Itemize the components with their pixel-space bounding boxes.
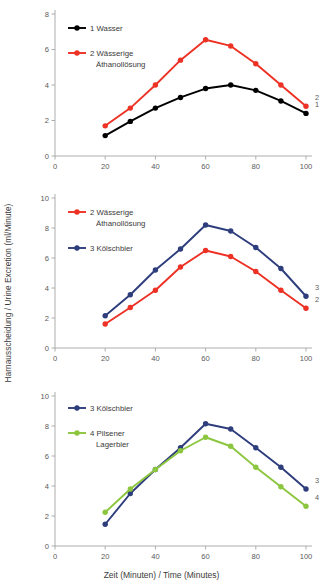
data-point bbox=[203, 248, 208, 253]
data-point bbox=[178, 448, 183, 453]
y-tick-label: 8 bbox=[45, 10, 49, 19]
chart-panel-2: 0246810020406080100232 WässerigeÄthanoll… bbox=[18, 190, 323, 376]
y-axis-label-container: Harnausscheidung / Urine Excretion (ml/M… bbox=[0, 185, 16, 400]
data-point bbox=[303, 294, 308, 299]
data-point bbox=[153, 82, 158, 87]
legend-marker bbox=[74, 25, 79, 30]
y-axis-label: Harnausscheidung / Urine Excretion (ml/M… bbox=[4, 203, 13, 382]
series-end-label: 2 bbox=[315, 295, 319, 304]
x-tick-label: 40 bbox=[151, 162, 159, 171]
y-tick-label: 6 bbox=[45, 254, 49, 263]
data-point bbox=[253, 61, 258, 66]
data-point bbox=[278, 82, 283, 87]
data-point bbox=[228, 43, 233, 48]
x-axis-ticks: 020406080100 bbox=[53, 348, 312, 363]
data-point bbox=[103, 123, 108, 128]
data-point bbox=[103, 133, 108, 138]
data-point bbox=[128, 305, 133, 310]
x-tick-label: 0 bbox=[53, 162, 57, 171]
data-point bbox=[278, 465, 283, 470]
data-point bbox=[278, 288, 283, 293]
data-series: 4 bbox=[103, 435, 320, 515]
legend-item: 4 PilsenerLagerbier bbox=[68, 429, 129, 449]
data-point bbox=[128, 105, 133, 110]
legend-item: 2 WässerigeÄthanollösung bbox=[68, 49, 145, 69]
data-point bbox=[303, 486, 308, 491]
data-point bbox=[203, 37, 208, 42]
x-tick-label: 40 bbox=[151, 354, 159, 363]
data-point bbox=[203, 222, 208, 227]
legend-item: 3 Kölschbier bbox=[68, 404, 133, 413]
x-tick-label: 80 bbox=[252, 552, 260, 561]
series-end-label: 3 bbox=[315, 476, 319, 485]
data-point bbox=[103, 522, 108, 527]
x-tick-label: 20 bbox=[101, 552, 109, 561]
x-tick-label: 0 bbox=[53, 354, 57, 363]
legend-label: 4 Pilsener bbox=[90, 429, 125, 438]
legend-item: 3 Kölschbier bbox=[68, 244, 133, 253]
axes bbox=[55, 392, 312, 546]
chart-legend: 2 WässerigeÄthanollösung3 Kölschbier bbox=[68, 208, 145, 253]
legend-marker bbox=[74, 430, 79, 435]
data-point bbox=[203, 421, 208, 426]
y-axis-ticks: 0246810 bbox=[41, 392, 55, 551]
y-tick-label: 4 bbox=[45, 284, 49, 293]
axes bbox=[55, 194, 312, 348]
legend-label: 3 Kölschbier bbox=[90, 244, 133, 253]
x-tick-label: 100 bbox=[300, 552, 313, 561]
legend-item: 1 Wasser bbox=[68, 24, 123, 33]
legend-label: Lagerbier bbox=[96, 440, 129, 449]
data-point bbox=[303, 104, 308, 109]
data-point bbox=[178, 57, 183, 62]
data-point bbox=[103, 321, 108, 326]
data-point bbox=[253, 88, 258, 93]
x-tick-label: 20 bbox=[101, 354, 109, 363]
x-tick-label: 20 bbox=[101, 162, 109, 171]
y-tick-label: 4 bbox=[45, 81, 49, 90]
legend-label: 1 Wasser bbox=[90, 24, 123, 33]
line-chart-1: 02468020406080100121 Wasser2 WässerigeÄt… bbox=[18, 0, 323, 178]
data-point bbox=[253, 465, 258, 470]
x-axis-ticks: 020406080100 bbox=[53, 546, 312, 561]
data-point bbox=[153, 105, 158, 110]
data-point bbox=[128, 486, 133, 491]
x-tick-label: 100 bbox=[300, 354, 313, 363]
y-axis-ticks: 02468 bbox=[45, 10, 55, 161]
series-end-label: 2 bbox=[315, 93, 319, 102]
data-point bbox=[228, 444, 233, 449]
data-point bbox=[228, 82, 233, 87]
urine-excretion-figure: Harnausscheidung / Urine Excretion (ml/M… bbox=[0, 0, 323, 586]
chart-panel-1: 02468020406080100121 Wasser2 WässerigeÄt… bbox=[18, 0, 323, 178]
data-series: 2 bbox=[103, 248, 320, 327]
data-point bbox=[228, 254, 233, 259]
chart-panel-3: 0246810020406080100343 Kölschbier4 Pilse… bbox=[18, 388, 323, 574]
legend-label: 2 Wässerige bbox=[90, 49, 133, 58]
legend-marker bbox=[74, 209, 79, 214]
x-tick-label: 60 bbox=[201, 552, 209, 561]
x-axis-ticks: 020406080100 bbox=[53, 156, 312, 171]
line-chart-2: 0246810020406080100232 WässerigeÄthanoll… bbox=[18, 190, 323, 376]
legend-label: 2 Wässerige bbox=[90, 208, 133, 217]
data-point bbox=[153, 288, 158, 293]
series-end-label: 3 bbox=[315, 283, 319, 292]
y-tick-label: 0 bbox=[45, 542, 49, 551]
data-point bbox=[103, 510, 108, 515]
legend-marker bbox=[74, 245, 79, 250]
data-point bbox=[228, 228, 233, 233]
x-tick-label: 40 bbox=[151, 552, 159, 561]
data-point bbox=[253, 269, 258, 274]
data-point bbox=[253, 445, 258, 450]
data-point bbox=[303, 111, 308, 116]
data-point bbox=[178, 95, 183, 100]
line-chart-3: 0246810020406080100343 Kölschbier4 Pilse… bbox=[18, 388, 323, 574]
data-point bbox=[178, 246, 183, 251]
legend-item: 2 WässerigeÄthanollösung bbox=[68, 208, 145, 228]
x-tick-label: 0 bbox=[53, 552, 57, 561]
x-tick-label: 80 bbox=[252, 162, 260, 171]
legend-marker bbox=[74, 50, 79, 55]
data-point bbox=[278, 266, 283, 271]
y-tick-label: 2 bbox=[45, 512, 49, 521]
chart-legend: 3 Kölschbier4 PilsenerLagerbier bbox=[68, 404, 133, 449]
legend-label: Äthanollösung bbox=[96, 219, 145, 228]
x-tick-label: 60 bbox=[201, 354, 209, 363]
